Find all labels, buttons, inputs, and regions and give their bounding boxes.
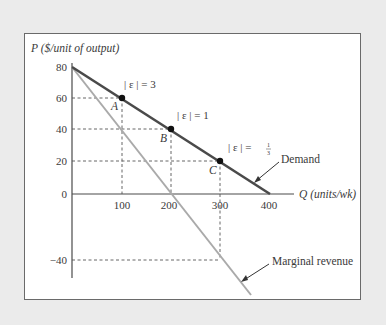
point-b-marker [168,126,174,132]
y-tick-40: 40 [56,123,68,135]
elasticity-b-label: | ε | = 1 [177,109,209,121]
x-tick-200: 200 [161,199,178,211]
mr-callout-label: Marginal revenue [272,255,353,268]
mr-arrowhead-icon [241,275,248,282]
guide-lines [72,98,220,260]
y-tick-neg40: −40 [50,254,68,266]
point-c-marker [217,158,223,164]
point-a-label: A [110,100,119,112]
x-tick-300: 300 [212,199,229,211]
x-tick-100: 100 [114,199,131,211]
elasticity-a-label: | ε | = 3 [124,78,156,90]
demand-callout-label: Demand [281,153,320,165]
mr-arrow-line [244,264,269,280]
svg-text:1: 1 [267,142,270,148]
elasticity-chart: P ($/unit of output) Q (units/wk) 80 60 … [0,0,386,325]
elasticity-c-label: | ε | = 1 3 [228,141,271,156]
x-axis-label: Q (units/wk) [299,188,356,201]
y-tick-20: 20 [56,155,68,167]
point-a-marker [119,95,125,101]
y-axis-label: P ($/unit of output) [30,42,119,55]
point-c-label: C [209,164,217,176]
y-tick-0: 0 [62,188,68,200]
point-b-label: B [160,132,167,144]
demand-arrowhead-icon [254,176,261,183]
svg-text:3: 3 [267,150,270,156]
y-tick-80: 80 [56,61,68,73]
y-tick-60: 60 [56,92,68,104]
x-tick-400: 400 [261,199,278,211]
marginal-revenue-line [72,67,251,295]
svg-text:| ε | =: | ε | = [228,141,251,153]
